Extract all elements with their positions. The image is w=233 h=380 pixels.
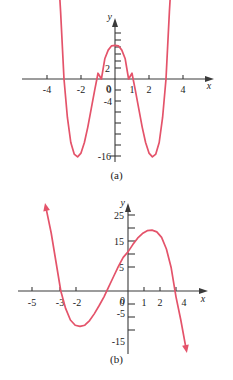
chart-b-ytick-label-1: 15: [114, 236, 124, 247]
chart-b-caption: (b): [0, 353, 233, 365]
chart-a-ytick-label-0: 2: [105, 63, 110, 74]
svg-b-arrowhead: [43, 203, 50, 212]
chart-b-xtick-label-2: -2: [73, 297, 81, 308]
chart-b-xtick-label-5: 2: [158, 297, 163, 308]
chart-a-ytick-label-2: -4: [104, 96, 112, 107]
chart-b-ytick-label-4: -5: [117, 308, 125, 319]
chart-a-y-axis-label: y: [107, 11, 113, 22]
svg-b-series-path: [46, 210, 185, 346]
chart-panel-b: -5 -3 -2 0 1 2 4 25 15 5 0 -5 -15 y x (b…: [0, 190, 233, 380]
chart-a-ytick-label-3: -16: [98, 151, 111, 162]
chart-b-svg: -5 -3 -2 0 1 2 4 25 15 5 0 -5 -15 y x: [0, 190, 233, 358]
chart-b-ytick-label-3: 0: [120, 295, 125, 306]
chart-b-ytick-label-5: -15: [112, 336, 125, 347]
chart-a-ytick-label-1: 0: [106, 83, 111, 94]
figure-page: -4 -2 0 1 2 4 2 0 -4 -16 y x (a): [0, 0, 233, 380]
chart-b-x-ticks: [32, 287, 176, 291]
chart-b-x-axis: [18, 288, 208, 294]
chart-b-xtick-label-6: 4: [182, 297, 187, 308]
chart-b-ytick-label-0: 25: [114, 210, 124, 221]
svg-b-arrowhead: [182, 345, 189, 354]
chart-b-y-ticks: [128, 215, 135, 330]
chart-a-x-axis-label: x: [206, 80, 212, 91]
chart-a-xtick-label-1: -2: [77, 84, 85, 95]
chart-a-svg: -4 -2 0 1 2 4 2 0 -4 -16 y x: [0, 0, 233, 168]
chart-a-xtick-label-5: 4: [181, 84, 186, 95]
chart-b-y-axis: [125, 203, 131, 354]
chart-a-x-axis: [22, 76, 214, 82]
chart-b-y-axis-label: y: [120, 197, 126, 208]
chart-a-xtick-label-0: -4: [43, 84, 51, 95]
chart-panel-a: -4 -2 0 1 2 4 2 0 -4 -16 y x (a): [0, 0, 233, 190]
chart-b-xtick-label-0: -5: [28, 297, 36, 308]
chart-a-caption: (a): [0, 169, 233, 181]
chart-b-x-axis-label: x: [200, 293, 206, 304]
chart-b-xtick-label-4: 1: [142, 297, 147, 308]
chart-a-xtick-label-4: 2: [147, 84, 152, 95]
